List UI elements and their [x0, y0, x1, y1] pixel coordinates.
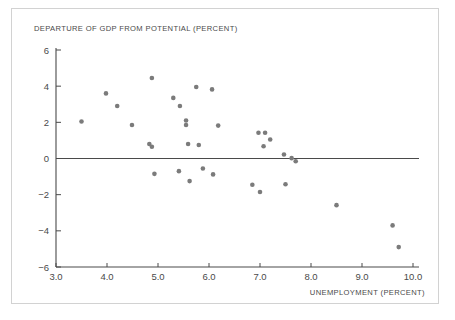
x-axis-title: UNEMPLOYMENT (PERCENT) [310, 288, 425, 297]
x-tick-label: 10.0 [404, 271, 423, 282]
x-tick-labels-group: 3.04.05.06.07.08.09.010.0 [49, 271, 422, 282]
y-tick-label: −2 [38, 189, 49, 200]
data-point [150, 144, 155, 149]
y-tick-label: −6 [38, 262, 49, 273]
data-point [396, 245, 401, 250]
scatter-plot: 3.04.05.06.07.08.09.010.0 6420−2−4−6 DEP… [0, 0, 455, 320]
y-tick-label: −4 [38, 225, 49, 236]
data-point [186, 142, 191, 147]
data-point [79, 119, 84, 124]
data-point [258, 190, 263, 195]
data-point [250, 182, 255, 187]
data-point [184, 118, 189, 123]
data-point [211, 172, 216, 177]
x-tick-label: 5.0 [151, 271, 164, 282]
data-point [201, 166, 206, 171]
x-tick-label: 6.0 [202, 271, 215, 282]
y-tick-label: 2 [44, 117, 49, 128]
chart-canvas: 3.04.05.06.07.08.09.010.0 6420−2−4−6 DEP… [0, 0, 455, 320]
data-point [194, 85, 199, 90]
data-point [115, 104, 120, 109]
data-point [152, 172, 157, 177]
x-tick-label: 4.0 [100, 271, 113, 282]
data-point [177, 169, 182, 174]
x-tick-label: 8.0 [304, 271, 317, 282]
data-point [283, 182, 288, 187]
data-point [282, 152, 287, 157]
y-tick-label: 4 [44, 81, 49, 92]
data-point [268, 137, 273, 142]
figure-container: 3.04.05.06.07.08.09.010.0 6420−2−4−6 DEP… [0, 0, 455, 320]
data-point [150, 76, 155, 81]
x-tick-label: 9.0 [355, 271, 368, 282]
data-point [334, 203, 339, 208]
data-point [216, 123, 221, 128]
data-point [210, 87, 215, 92]
data-points-group [79, 76, 401, 250]
y-axis-title: DEPARTURE OF GDP FROM POTENTIAL (PERCENT… [34, 24, 238, 33]
data-point [130, 123, 135, 128]
y-tick-label: 0 [44, 153, 49, 164]
data-point [171, 96, 176, 101]
data-point [104, 91, 109, 96]
data-point [197, 143, 202, 148]
x-tick-label: 7.0 [253, 271, 266, 282]
y-tick-label: 6 [44, 45, 49, 56]
data-point [293, 159, 298, 164]
data-point [263, 131, 268, 136]
data-point [390, 223, 395, 228]
data-point [184, 123, 189, 128]
data-point [289, 156, 294, 161]
x-tick-label: 3.0 [49, 271, 62, 282]
data-point [178, 104, 183, 109]
data-point [187, 179, 192, 184]
axes-group [56, 48, 419, 267]
data-point [256, 131, 261, 136]
y-tick-labels-group: 6420−2−4−6 [38, 45, 49, 273]
data-point [261, 144, 266, 149]
